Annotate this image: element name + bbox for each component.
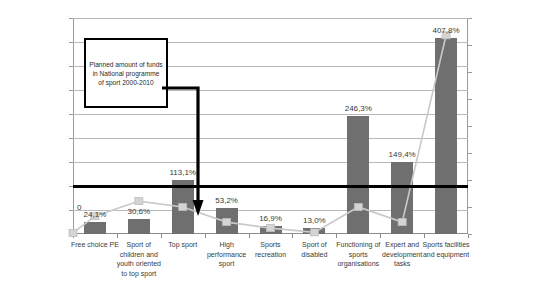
category-label: Expert and development tasks (378, 240, 426, 269)
category-axis-labels: Free choice PESport of children and yout… (73, 240, 468, 290)
bar-data-label: 149,4% (372, 150, 432, 159)
bar-data-label: 13,0% (284, 216, 344, 225)
chart-figure: 0%50 %100 %150 %200 %250 %300 %350 %400 … (0, 0, 541, 291)
annotation-callout: Planned amount of funds in National prog… (84, 38, 168, 108)
category-axis-tick (468, 234, 469, 238)
line-origin-label: 0 (77, 203, 81, 212)
right-axis-tick (468, 99, 472, 100)
line-marker (398, 219, 406, 226)
category-label: Top sport (159, 240, 207, 250)
line-marker (135, 198, 143, 205)
right-axis-tick (468, 18, 472, 19)
category-axis-tick (336, 234, 337, 238)
bar-data-label: 407,8% (416, 26, 476, 35)
right-axis-tick (468, 180, 472, 181)
category-axis-tick (161, 234, 162, 238)
category-axis-tick (249, 234, 250, 238)
category-axis-tick (424, 234, 425, 238)
line-marker (267, 225, 275, 232)
category-label: Sport of children and youth oriented to … (115, 240, 163, 278)
right-axis-tick (468, 72, 472, 73)
category-label: Free choice PE (71, 240, 119, 250)
annotation-callout-text: Planned amount of funds in National prog… (89, 60, 163, 87)
right-axis-tick (468, 126, 472, 127)
category-label: Sports recreation (247, 240, 295, 259)
category-label: Sports facilities and equipment (422, 240, 470, 259)
annotation-arrow (160, 58, 220, 218)
right-axis-tick (468, 207, 472, 208)
category-label: Sport of disabled (290, 240, 338, 259)
line-marker (223, 219, 231, 226)
right-axis-tick (468, 153, 472, 154)
category-axis-tick (117, 234, 118, 238)
line-marker (354, 204, 362, 211)
line-marker (69, 229, 77, 236)
line-marker (310, 229, 318, 236)
bar-data-label: 246,3% (328, 104, 388, 113)
category-axis-tick (380, 234, 381, 238)
category-axis-tick (292, 234, 293, 238)
category-axis-tick (205, 234, 206, 238)
reference-line-100 (73, 185, 468, 188)
category-label: High performance sport (203, 240, 251, 269)
right-axis-tick (468, 45, 472, 46)
category-label: Functioning of sports organisations (334, 240, 382, 269)
